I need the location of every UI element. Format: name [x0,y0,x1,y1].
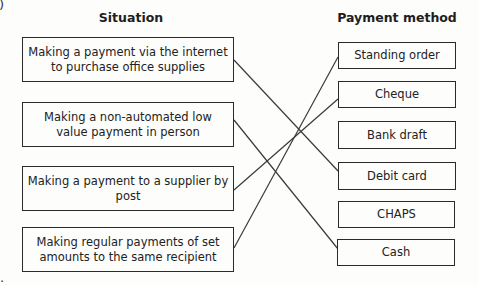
situation-label: Making a non-automated low value payment… [27,110,229,140]
situation-box-internet: Making a payment via the internet to pur… [22,37,234,82]
method-label: Standing order [354,48,440,63]
situation-box-in-person: Making a non-automated low value payment… [22,102,234,147]
situation-label: Making a payment to a supplier by post [27,174,229,204]
method-box-chaps: CHAPS [338,201,455,228]
connection-in-person-cash [234,120,338,249]
method-label: CHAPS [377,207,416,222]
method-box-bank-draft: Bank draft [338,121,456,149]
method-label: Cash [382,245,410,260]
method-box-standing-order: Standing order [338,42,456,69]
method-box-debit-card: Debit card [338,162,456,190]
situation-label: Making regular payments of set amounts t… [27,235,229,265]
method-label: Bank draft [367,128,427,143]
method-label: Cheque [375,87,419,102]
connection-internet-debit-card [234,60,338,171]
method-box-cheque: Cheque [338,81,456,108]
method-box-cash: Cash [337,239,455,266]
connection-regular-standing-order [234,57,338,248]
method-label: Debit card [367,169,427,184]
situation-box-regular: Making regular payments of set amounts t… [22,227,234,272]
situation-label: Making a payment via the internet to pur… [27,45,229,75]
situation-box-post: Making a payment to a supplier by post [22,166,234,211]
connection-post-cheque [234,99,338,190]
